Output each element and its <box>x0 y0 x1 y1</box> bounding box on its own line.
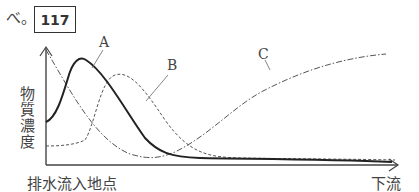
curve-label-c: C <box>258 46 269 62</box>
curve-b <box>46 74 395 160</box>
leader-line-a <box>92 50 103 68</box>
curve-c <box>46 50 386 158</box>
x-axis-label-end: 下流 <box>371 172 401 192</box>
x-axis-label-start: 排水流入地点 <box>27 172 117 192</box>
leader-line-b <box>146 75 168 101</box>
concentration-chart <box>0 0 419 192</box>
curve-a <box>46 59 392 162</box>
curve-label-b: B <box>167 57 177 73</box>
curve-label-a: A <box>99 34 109 50</box>
